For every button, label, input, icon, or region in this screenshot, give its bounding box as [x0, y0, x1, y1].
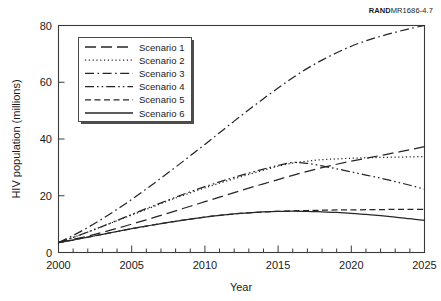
- y-tick-label: 80: [40, 20, 52, 32]
- y-tick-label: 60: [40, 76, 52, 88]
- x-tick-label: 2025: [412, 259, 436, 271]
- series-line: [59, 147, 425, 243]
- legend-label: Scenario 1: [139, 42, 184, 53]
- x-axis-tick-labels: 200020052010201520202025: [46, 259, 436, 271]
- legend-label: Scenario 6: [139, 108, 184, 119]
- figure-source-code: MR1686-4.7: [391, 6, 433, 15]
- legend-label: Scenario 2: [139, 55, 184, 66]
- x-tick-label: 2005: [119, 259, 143, 271]
- series-line: [59, 211, 425, 243]
- y-tick-label: 0: [46, 247, 52, 259]
- line-chart: HIV population (millions) 020406080 2000…: [0, 0, 441, 301]
- legend-label: Scenario 5: [139, 94, 184, 105]
- x-tick-label: 2010: [193, 259, 217, 271]
- y-axis-title: HIV population (millions): [10, 79, 22, 198]
- chart-legend: Scenario 1Scenario 2Scenario 3Scenario 4…: [79, 38, 195, 125]
- y-tick-label: 40: [40, 133, 52, 145]
- y-axis-title-text: HIV population (millions): [10, 79, 22, 198]
- figure-source-brand: RAND: [369, 6, 391, 15]
- y-tick-label: 20: [40, 190, 52, 202]
- x-tick-label: 2000: [46, 259, 70, 271]
- x-axis-title-text: Year: [230, 281, 253, 293]
- legend-label: Scenario 4: [139, 81, 184, 92]
- y-axis-tick-labels: 020406080: [40, 20, 52, 259]
- x-axis-title: Year: [230, 281, 253, 293]
- figure-container: RANDMR1686-4.7 HIV population (millions)…: [0, 0, 441, 301]
- x-tick-label: 2015: [266, 259, 290, 271]
- x-tick-label: 2020: [339, 259, 363, 271]
- legend-label: Scenario 3: [139, 68, 184, 79]
- series-line: [59, 162, 425, 242]
- figure-source-tag: RANDMR1686-4.7: [369, 6, 433, 15]
